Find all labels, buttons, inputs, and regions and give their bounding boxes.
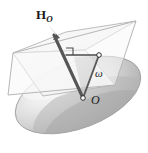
projection-endpoint-dot [97,53,102,58]
label-angular-velocity: ω [95,68,103,79]
label-H-subscript: O [46,14,53,24]
figure-container: HO ω O [0,0,148,153]
diagram-canvas [0,0,148,153]
label-origin-point: O [91,94,100,106]
label-angular-momentum: HO [36,8,53,24]
label-H-symbol: H [36,7,46,22]
origin-dot [81,96,86,101]
